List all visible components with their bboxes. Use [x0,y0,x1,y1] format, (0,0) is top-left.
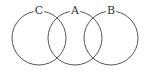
set-a-label: A [70,4,80,17]
set-b-label: B [107,4,115,17]
set-a-circle [48,11,102,65]
set-c-circle [12,11,66,65]
venn-diagram: C A B [0,0,151,74]
set-c-label: C [35,4,43,17]
set-b-circle [84,11,138,65]
